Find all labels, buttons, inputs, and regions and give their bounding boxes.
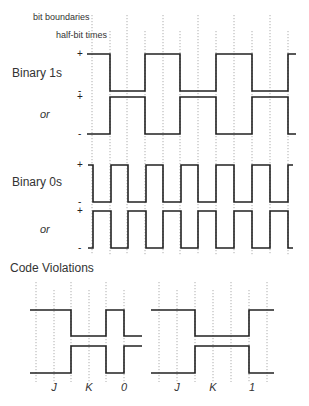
plus-sign: + <box>77 91 83 102</box>
plus-sign: + <box>77 48 83 59</box>
binary-1s-waveform-b <box>87 97 296 134</box>
legend-bit-boundaries: bit boundaries <box>33 12 90 22</box>
violation-gridlines <box>159 282 267 382</box>
binary-0s-waveform-a <box>88 165 293 202</box>
manchester-encoding-diagram: bit boundaries half-bit times Binary 1s … <box>0 0 309 406</box>
timing-gridlines <box>92 15 288 255</box>
violation-waveform-a <box>151 310 274 336</box>
symbol-k: K <box>85 381 93 393</box>
symbol-k: K <box>209 381 217 393</box>
minus-sign: - <box>78 128 81 139</box>
binary-0s-or-label: or <box>40 223 51 235</box>
symbol-j: J <box>50 381 57 393</box>
plus-sign: + <box>77 205 83 216</box>
binary-1s-waveform-a <box>87 54 296 91</box>
violation-gridlines <box>36 282 124 382</box>
code-violations-label: Code Violations <box>10 261 94 275</box>
minus-sign: - <box>78 242 81 253</box>
symbol-j: J <box>173 381 180 393</box>
binary-1s-or-label: or <box>40 108 51 120</box>
plus-sign: + <box>77 159 83 170</box>
legend-half-bit-times: half-bit times <box>56 30 108 40</box>
code-violation-group-j-k-1: J K 1 <box>151 282 274 393</box>
binary-0s-label: Binary 0s <box>12 175 62 189</box>
binary-1s-label: Binary 1s <box>12 66 62 80</box>
symbol-0: 0 <box>121 381 128 393</box>
violation-waveform-b <box>30 346 142 373</box>
code-violation-group-j-k-0: J K 0 <box>30 282 142 393</box>
violation-waveform-a <box>30 310 142 336</box>
symbol-1: 1 <box>249 381 255 393</box>
binary-0s-waveform-b <box>88 211 293 248</box>
violation-waveform-b <box>151 346 274 373</box>
